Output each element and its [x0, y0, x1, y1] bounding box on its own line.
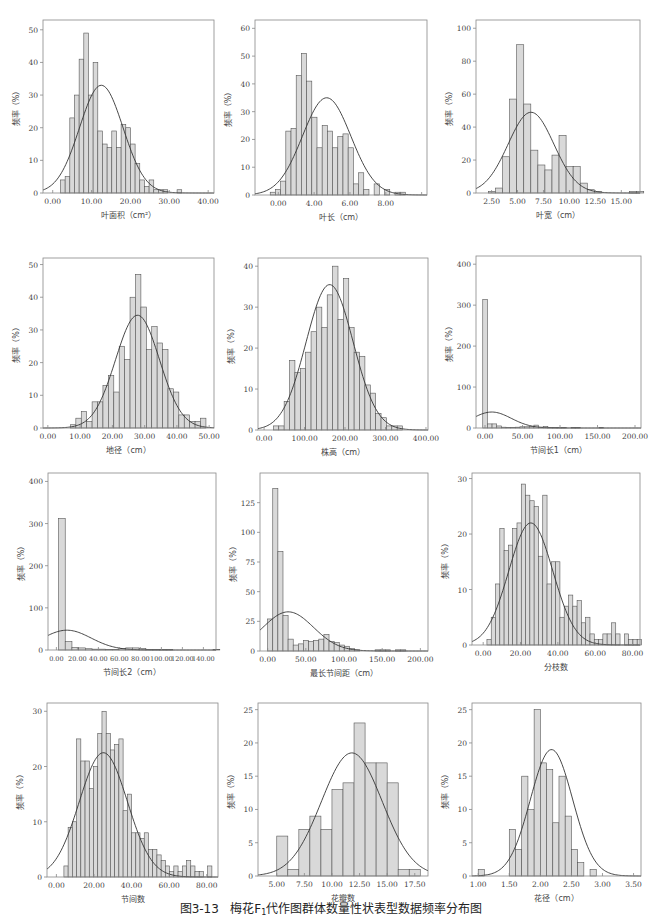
bar — [68, 827, 72, 877]
x-tick-label: 2.50 — [483, 197, 500, 206]
x-tick-label: 12.50 — [585, 197, 607, 206]
x-tick-label: 40.00 — [121, 881, 143, 890]
x-tick-label: 0.00 — [48, 881, 65, 890]
y-tick-label: 20 — [243, 739, 253, 748]
bar — [299, 829, 310, 876]
x-tick-label: 0.00 — [256, 434, 273, 443]
bar — [108, 376, 113, 428]
y-tick-label: 0 — [248, 872, 253, 881]
x-tick-label: 60.00 — [158, 881, 180, 890]
y-tick-label: 10 — [243, 385, 253, 394]
bar — [136, 833, 140, 877]
y-tick-label: 20 — [32, 763, 42, 772]
bar — [538, 556, 542, 645]
y-axis: 01020304050 — [28, 261, 43, 433]
bar — [283, 615, 288, 651]
bar — [547, 770, 553, 876]
bar — [603, 634, 607, 645]
x-tick-label: 30.00 — [134, 432, 156, 441]
bar — [343, 783, 354, 876]
y-axis-label: 频率（%） — [11, 87, 21, 127]
bars — [478, 710, 596, 876]
x-axis-label: 最长节间距（cm） — [310, 668, 378, 678]
y-tick-label: 20 — [28, 124, 38, 133]
y-tick-label: 50 — [240, 52, 250, 61]
y-tick-label: 0 — [462, 872, 467, 881]
x-tick-label: 50.00 — [295, 655, 317, 664]
bar — [521, 484, 525, 645]
histogram-internode-length-2: 01002003004000.0020.0040.0060.0080.00100… — [8, 469, 222, 684]
bar — [115, 744, 119, 877]
y-tick-label: 20 — [28, 359, 38, 368]
y-axis-label: 频率（%） — [226, 324, 236, 364]
x-tick-label: 1.00 — [470, 880, 487, 889]
bar — [559, 135, 566, 193]
bar — [190, 421, 195, 428]
y-tick-label: 20 — [461, 156, 471, 165]
y-tick-label: 40 — [28, 293, 38, 302]
bar — [277, 836, 288, 876]
bar — [154, 190, 159, 193]
bar — [365, 763, 376, 876]
histogram-branch-number: 01020300.0020.0040.0060.0080.00分枝数频率（%） — [432, 469, 646, 679]
bar — [569, 595, 573, 645]
caption-prefix: 图3-13 — [180, 902, 219, 916]
bar — [94, 767, 98, 877]
y-tick-label: 30 — [28, 91, 38, 100]
bar — [560, 617, 564, 645]
bar — [98, 131, 103, 193]
bar — [528, 809, 534, 876]
y-tick-label: 40 — [28, 58, 38, 67]
bar — [60, 180, 65, 193]
bar — [517, 45, 524, 193]
bar — [364, 189, 369, 195]
bar — [483, 299, 488, 428]
bar — [348, 148, 353, 195]
y-axis-label: 频率（%） — [228, 542, 238, 582]
bar — [491, 617, 495, 645]
bar — [191, 866, 195, 877]
bar — [107, 147, 112, 193]
x-tick-label: 100.00 — [291, 434, 317, 443]
y-axis: 0102030405060 — [240, 24, 255, 200]
y-axis: 020406080100 — [457, 24, 476, 198]
x-axis-label: 叶宽（cm） — [536, 210, 580, 220]
bars — [270, 53, 405, 195]
bars — [483, 299, 604, 428]
bar — [187, 860, 191, 877]
bar — [327, 131, 332, 195]
bar — [547, 584, 551, 645]
x-tick-label: 10.00 — [559, 197, 581, 206]
bar — [321, 829, 332, 876]
bar — [319, 639, 324, 651]
bar — [130, 297, 135, 428]
bar — [359, 173, 364, 195]
bars — [268, 488, 406, 651]
bar — [496, 188, 503, 193]
bars — [64, 711, 212, 877]
x-tick-label: 0.00 — [49, 655, 63, 663]
y-tick-label: 20 — [243, 344, 253, 353]
bar — [624, 634, 628, 645]
y-tick-label: 125 — [241, 499, 256, 508]
bar — [148, 849, 152, 877]
bar — [311, 332, 316, 430]
x-tick-label: 7.50 — [535, 197, 552, 206]
bar — [273, 488, 278, 651]
bar — [581, 623, 585, 645]
y-tick-label: 300 — [29, 520, 44, 529]
y-tick-label: 100 — [29, 604, 44, 613]
y-axis: 0255075100125 — [241, 499, 260, 656]
y-tick-label: 5 — [462, 839, 467, 848]
bar — [526, 495, 530, 645]
bar — [72, 822, 76, 877]
y-axis: 0100200300400 — [29, 477, 48, 655]
y-tick-label: 10 — [28, 156, 38, 165]
y-axis-label: 频率（%） — [11, 323, 21, 363]
y-tick-label: 0 — [38, 646, 43, 655]
bar — [103, 386, 108, 429]
bar — [144, 186, 149, 193]
x-tick-label: 20.00 — [68, 655, 87, 663]
y-tick-label: 400 — [457, 260, 472, 269]
x-tick-label: 200.00 — [332, 434, 358, 443]
